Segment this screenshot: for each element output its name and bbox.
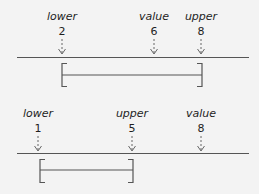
number-line: [17, 153, 249, 154]
diagram-value-inside-range: lower2value6upper8: [0, 0, 259, 97]
upper-label: upper: [116, 108, 148, 120]
diagram-value-outside-range: lower1upper5value8: [0, 97, 259, 194]
upper-number: 8: [198, 26, 205, 38]
upper-label: upper: [185, 11, 217, 23]
value-label: value: [186, 108, 216, 120]
lower-label: lower: [47, 11, 77, 23]
lower-number: 2: [59, 26, 66, 38]
dashed-down-arrow-icon: [149, 39, 159, 55]
dashed-down-arrow-icon: [33, 136, 43, 152]
value-label: value: [139, 11, 169, 23]
lower-label: lower: [23, 108, 53, 120]
range-bracket: [39, 159, 134, 183]
value-number: 8: [198, 123, 205, 135]
number-line: [17, 57, 249, 58]
dashed-down-arrow-icon: [127, 136, 137, 152]
dashed-down-arrow-icon: [196, 39, 206, 55]
lower-number: 1: [35, 123, 42, 135]
dashed-down-arrow-icon: [196, 136, 206, 152]
value-number: 6: [151, 26, 158, 38]
dashed-down-arrow-icon: [57, 39, 67, 55]
range-bracket: [61, 63, 203, 87]
upper-number: 5: [129, 123, 136, 135]
